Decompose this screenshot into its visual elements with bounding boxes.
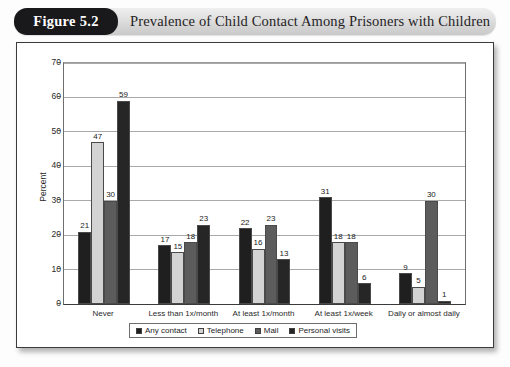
plot-area: 214730591715182322162313311818695301 xyxy=(63,62,466,305)
bar-group: 22162313 xyxy=(239,63,291,304)
y-axis-tick-mark xyxy=(57,303,61,304)
bar-value-label: 47 xyxy=(93,133,102,141)
bar-slot: 31 xyxy=(319,63,332,304)
bar-slot: 9 xyxy=(399,63,412,304)
bar-slot: 23 xyxy=(197,63,210,304)
bar-value-label: 13 xyxy=(279,250,288,258)
bar-value-label: 1 xyxy=(442,291,446,299)
bar-group-bars: 3118186 xyxy=(319,63,371,304)
bar-value-label: 18 xyxy=(186,233,195,241)
bar-group-bars: 22162313 xyxy=(239,63,291,304)
bar[interactable] xyxy=(277,259,290,304)
x-axis-category-label: Daily or almost daily xyxy=(388,309,460,318)
y-axis-tick-mark xyxy=(57,130,61,131)
y-axis-tick-mark xyxy=(57,234,61,235)
bar[interactable] xyxy=(171,252,184,304)
legend-swatch-icon xyxy=(136,328,142,334)
bar-value-label: 59 xyxy=(119,91,128,99)
bar[interactable] xyxy=(197,225,210,304)
figure-frame: Percent 010203040506070 2147305917151823… xyxy=(16,42,494,348)
bar-slot: 15 xyxy=(171,63,184,304)
x-axis-category-label: At least 1x/week xyxy=(315,309,373,318)
figure-number-badge: Figure 5.2 xyxy=(14,8,118,35)
bar-group: 17151823 xyxy=(158,63,210,304)
legend-label: Personal visits xyxy=(298,326,350,335)
bar-group-bars: 21473059 xyxy=(78,63,130,304)
y-axis-tick-mark xyxy=(57,96,61,97)
y-axis-tick-mark xyxy=(57,268,61,269)
figure-header-bar: Figure 5.2 Prevalence of Child Contact A… xyxy=(14,8,496,35)
bar-value-label: 21 xyxy=(80,222,89,230)
bar-slot: 16 xyxy=(252,63,265,304)
bar-value-label: 22 xyxy=(241,219,250,227)
bar-slot: 1 xyxy=(438,63,451,304)
legend-swatch-icon xyxy=(289,328,295,334)
bar-value-label: 18 xyxy=(334,233,343,241)
x-axis-category-label: Never xyxy=(92,309,113,318)
bar-slot: 5 xyxy=(412,63,425,304)
bar-slot: 18 xyxy=(184,63,197,304)
y-axis-tick-mark xyxy=(57,165,61,166)
bar[interactable] xyxy=(265,225,278,304)
bar-slot: 47 xyxy=(91,63,104,304)
bar[interactable] xyxy=(104,201,117,304)
bar-group: 95301 xyxy=(399,63,451,304)
bar-value-label: 31 xyxy=(321,188,330,196)
legend-swatch-icon xyxy=(255,328,261,334)
bar[interactable] xyxy=(117,101,130,304)
x-axis-category-label: Less than 1x/month xyxy=(148,309,218,318)
legend-item[interactable]: Any contact xyxy=(136,326,187,335)
bar[interactable] xyxy=(438,301,451,304)
bar-group: 21473059 xyxy=(78,63,130,304)
bar-value-label: 16 xyxy=(254,239,263,247)
bar-slot: 6 xyxy=(358,63,371,304)
bar-slot: 18 xyxy=(332,63,345,304)
bar[interactable] xyxy=(425,201,438,304)
bar-slot: 30 xyxy=(104,63,117,304)
bar-slot: 21 xyxy=(78,63,91,304)
bar[interactable] xyxy=(184,242,197,304)
x-axis-category-label: At least 1x/month xyxy=(233,309,295,318)
legend-swatch-icon xyxy=(198,328,204,334)
bar-value-label: 9 xyxy=(403,264,407,272)
bar-slot: 17 xyxy=(158,63,171,304)
bar-slot: 30 xyxy=(425,63,438,304)
legend-item[interactable]: Mail xyxy=(255,326,279,335)
bar-value-label: 17 xyxy=(160,236,169,244)
legend-label: Mail xyxy=(264,326,279,335)
y-axis-tick-mark xyxy=(57,199,61,200)
figure-title: Prevalence of Child Contact Among Prison… xyxy=(130,8,490,35)
bar[interactable] xyxy=(345,242,358,304)
bar-group-bars: 17151823 xyxy=(158,63,210,304)
bar[interactable] xyxy=(91,142,104,304)
chart-legend: Any contactTelephoneMailPersonal visits xyxy=(129,323,357,338)
bar-value-label: 23 xyxy=(267,215,276,223)
bar-value-label: 5 xyxy=(416,277,420,285)
bar-slot: 59 xyxy=(117,63,130,304)
bar-value-label: 30 xyxy=(427,191,436,199)
y-axis-tick-mark xyxy=(57,62,61,63)
bar-group: 3118186 xyxy=(319,63,371,304)
bar[interactable] xyxy=(158,245,171,304)
bar[interactable] xyxy=(252,249,265,304)
bar[interactable] xyxy=(358,283,371,304)
bar-slot: 13 xyxy=(277,63,290,304)
bar[interactable] xyxy=(319,197,332,304)
legend-item[interactable]: Telephone xyxy=(198,326,244,335)
bar[interactable] xyxy=(332,242,345,304)
bar-slot: 22 xyxy=(239,63,252,304)
bar-value-label: 6 xyxy=(362,274,366,282)
bar-value-label: 18 xyxy=(347,233,356,241)
bar-value-label: 30 xyxy=(106,191,115,199)
bar-value-label: 23 xyxy=(199,215,208,223)
bar[interactable] xyxy=(412,287,425,304)
bar-value-label: 15 xyxy=(173,243,182,251)
y-axis: Percent 010203040506070 xyxy=(29,62,61,305)
legend-item[interactable]: Personal visits xyxy=(289,326,350,335)
bar-group-bars: 95301 xyxy=(399,63,451,304)
legend-label: Telephone xyxy=(207,326,244,335)
legend-label: Any contact xyxy=(145,326,187,335)
bar[interactable] xyxy=(399,273,412,304)
bar[interactable] xyxy=(78,232,91,304)
bar[interactable] xyxy=(239,228,252,304)
